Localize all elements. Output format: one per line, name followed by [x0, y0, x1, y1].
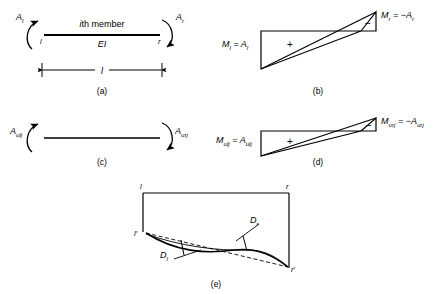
node-label-l: l: [40, 37, 42, 46]
label-Murj-equals-minusAurj: Murj = −Aurj: [381, 116, 424, 128]
label-corner-l: l: [140, 182, 142, 191]
rotation-tangent-left: [174, 250, 201, 259]
panel-tag-a: (a): [97, 86, 108, 96]
panel-tag-e: (e): [211, 279, 222, 289]
panel-d: + − Mulj = Aulj Murj = −Aurj (d): [216, 116, 424, 167]
chord-dashed-line: [146, 233, 288, 267]
bmd-unit-diagonal: [261, 118, 376, 156]
label-Dr: Dr: [250, 215, 260, 227]
label-Ml-equals-Al: Ml = Al: [222, 39, 249, 51]
label-corner-r: r: [286, 182, 289, 191]
label-Mulj-equals-Aulj: Mulj = Aulj: [216, 135, 252, 147]
structural-member-figure: Al Ar ith member EI l r l (a) + −: [0, 0, 434, 294]
panel-a: Al Ar ith member EI l r l (a): [15, 12, 185, 96]
left-unit-moment-arrow: [27, 124, 38, 152]
bmd-plus-sign: +: [287, 39, 293, 50]
dim-label-length: l: [101, 66, 104, 76]
label-Ar: Ar: [175, 12, 185, 24]
label-EI: EI: [98, 39, 107, 49]
panel-b: + − Ml = Al Mr = −Ar (b): [222, 10, 415, 96]
label-Aurj: Aurj: [174, 126, 189, 138]
member-title: ith member: [79, 19, 124, 29]
label-corner-l-prime: l′: [134, 229, 138, 238]
bmd-unit-plus-sign: +: [287, 136, 293, 147]
bmd-minus-sign: −: [365, 18, 371, 29]
bmd-unit-minus-sign: −: [366, 120, 372, 131]
label-corner-r-prime: r′: [291, 265, 295, 274]
panel-tag-c: (c): [97, 157, 107, 167]
node-label-r: r: [158, 37, 161, 46]
bmd-positive-region: [261, 31, 361, 69]
panel-tag-d: (d): [313, 157, 324, 167]
panel-c: Aulj Aurj (c): [9, 123, 189, 167]
right-moment-arrow: [162, 20, 172, 47]
label-Dl: Dl: [160, 250, 169, 262]
label-Mr-equals-minusAr: Mr = −Ar: [381, 10, 415, 22]
figure-svg: Al Ar ith member EI l r l (a) + −: [0, 0, 434, 294]
bmd-diagonal: [261, 12, 376, 69]
bmd-unit-positive-region: [261, 131, 361, 156]
panel-tag-b: (b): [313, 86, 324, 96]
left-moment-arrow: [27, 21, 38, 49]
panel-e: Dl Dr l r l′ r′ (e): [134, 182, 295, 289]
label-Aulj: Aulj: [9, 126, 23, 138]
right-unit-moment-arrow: [162, 123, 172, 150]
label-Al: Al: [15, 12, 24, 24]
